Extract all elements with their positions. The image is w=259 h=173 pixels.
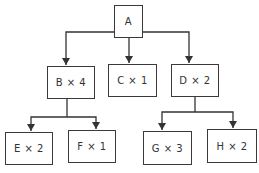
- node-d: D × 2: [171, 64, 219, 97]
- node-c: C × 1: [108, 64, 157, 97]
- node-f-label: F × 1: [77, 141, 106, 152]
- node-h-label: H × 2: [216, 141, 247, 152]
- node-a: A: [114, 5, 143, 38]
- node-b: B × 4: [47, 66, 95, 99]
- edge-d-g-h: [158, 97, 237, 130]
- edge-a-b: [62, 32, 114, 65]
- edge-a-d: [143, 32, 193, 63]
- node-g-label: G × 3: [152, 143, 183, 154]
- node-f: F × 1: [68, 130, 116, 163]
- edge-a-c: [125, 38, 133, 63]
- node-c-label: C × 1: [117, 75, 148, 86]
- edge-b-e-f: [27, 98, 100, 131]
- node-e-label: E × 2: [14, 143, 44, 154]
- node-a-label: A: [125, 16, 132, 27]
- node-g: G × 3: [143, 131, 192, 165]
- node-d-label: D × 2: [179, 75, 210, 86]
- node-e: E × 2: [5, 132, 53, 165]
- node-h: H × 2: [207, 129, 257, 163]
- node-b-label: B × 4: [56, 77, 86, 88]
